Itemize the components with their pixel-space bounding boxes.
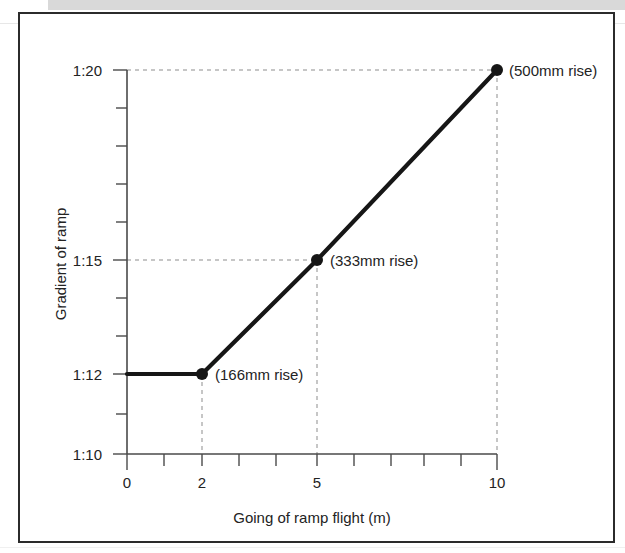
scan-rule-bottom xyxy=(0,547,625,548)
scan-top-band xyxy=(48,0,625,10)
data-point-x10 xyxy=(491,64,503,76)
annotation-500mm-rise: (500mm rise) xyxy=(509,62,597,79)
data-point-x5 xyxy=(311,254,323,266)
page-canvas: 1:20 1:15 1:12 1:10 0 2 5 10 (500mm rise… xyxy=(0,0,625,553)
annotation-333mm-rise: (333mm rise) xyxy=(330,252,418,269)
y-tick-label-1-10: 1:10 xyxy=(42,446,102,463)
x-tick-label-10: 10 xyxy=(477,474,517,491)
x-axis-title: Going of ramp flight (m) xyxy=(112,509,512,526)
x-tick-label-5: 5 xyxy=(297,474,337,491)
data-point-x2 xyxy=(196,368,208,380)
annotation-166mm-rise: (166mm rise) xyxy=(215,366,303,383)
chart-plot-area: 1:20 1:15 1:12 1:10 0 2 5 10 (500mm rise… xyxy=(20,14,617,545)
x-tick-label-0: 0 xyxy=(107,474,147,491)
x-ticks xyxy=(127,454,497,470)
figure-frame: 1:20 1:15 1:12 1:10 0 2 5 10 (500mm rise… xyxy=(18,12,615,543)
chart-svg xyxy=(20,14,617,545)
y-ticks xyxy=(113,70,127,454)
y-tick-label-1-12: 1:12 xyxy=(42,366,102,383)
ramp-gradient-series xyxy=(127,70,497,374)
y-tick-label-1-20: 1:20 xyxy=(42,62,102,79)
x-tick-label-2: 2 xyxy=(182,474,222,491)
y-tick-label-1-15: 1:15 xyxy=(42,252,102,269)
y-axis-title: Gradient of ramp xyxy=(52,174,69,354)
